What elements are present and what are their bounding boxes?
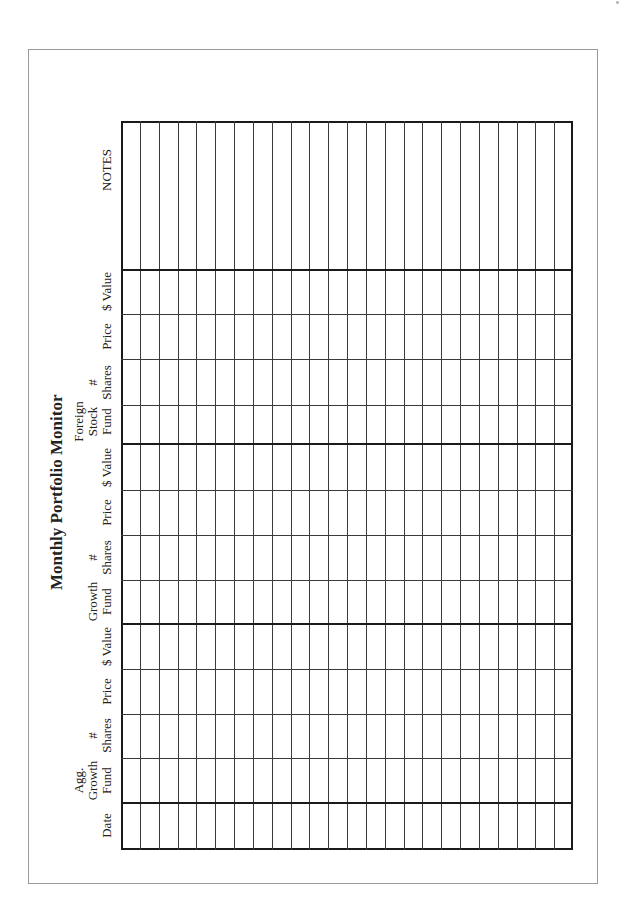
row-rule — [196, 121, 197, 850]
section-divider-foreign — [121, 443, 573, 445]
header-agg-growth-price: Price — [100, 669, 114, 714]
row-rule — [498, 121, 499, 850]
header-foreign-value: $ Value — [100, 269, 114, 314]
row-rule — [272, 121, 273, 850]
header-foreign-stock-fund: Foreign Stock Fund — [72, 399, 114, 444]
row-rule — [347, 121, 348, 850]
column-rule — [121, 758, 573, 759]
column-rule — [121, 490, 573, 491]
row-rule — [460, 121, 461, 850]
column-rule — [121, 535, 573, 536]
column-rule — [121, 359, 573, 360]
row-rule — [140, 121, 141, 850]
column-rule — [121, 405, 573, 406]
row-rule — [385, 121, 386, 850]
form-title: Monthly Portfolio Monitor — [48, 400, 66, 590]
row-rule — [517, 121, 518, 850]
header-foreign-shares: # Shares — [86, 360, 114, 405]
column-rule — [121, 314, 573, 315]
header-foreign-price: Price — [100, 314, 114, 359]
row-rule — [178, 121, 179, 850]
row-rule — [309, 121, 310, 850]
corner-mark — [616, 1, 619, 4]
row-rule — [253, 121, 254, 850]
header-growth-price: Price — [100, 490, 114, 535]
header-agg-growth-value: $ Value — [100, 624, 114, 669]
column-rule — [121, 714, 573, 715]
row-rule — [291, 121, 292, 850]
header-agg-growth-shares: # Shares — [86, 713, 114, 758]
row-rule — [159, 121, 160, 850]
row-rule — [404, 121, 405, 850]
row-rule — [535, 121, 536, 850]
section-divider-growth — [121, 623, 573, 625]
header-agg-growth-fund: Agg. Growth Fund — [72, 758, 114, 803]
row-rule — [441, 121, 442, 850]
header-date: Date — [100, 803, 114, 848]
row-rule — [422, 121, 423, 850]
header-notes: NOTES — [100, 120, 114, 220]
row-rule — [234, 121, 235, 850]
row-rule — [479, 121, 480, 850]
header-growth-fund: Growth Fund — [86, 579, 114, 624]
section-divider-notes — [121, 269, 573, 271]
row-rule — [215, 121, 216, 850]
row-rule — [366, 121, 367, 850]
row-rule — [554, 121, 555, 850]
column-rule — [121, 580, 573, 581]
header-growth-shares: # Shares — [86, 535, 114, 580]
section-divider-agg-growth — [121, 802, 573, 804]
column-rule — [121, 669, 573, 670]
row-rule — [328, 121, 329, 850]
header-growth-value: $ Value — [100, 445, 114, 490]
